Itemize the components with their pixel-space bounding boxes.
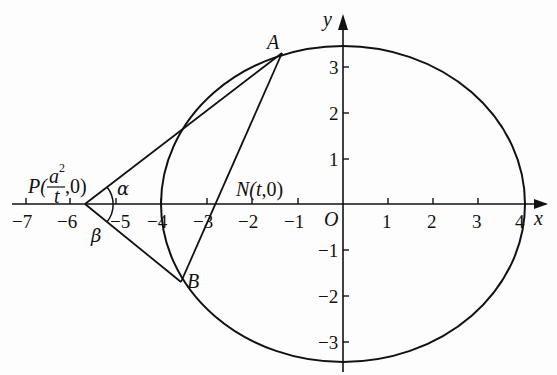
y-tick-label: −2	[318, 286, 338, 307]
diagram-canvas: −7 −6 −5 −4 −3 −2 −1 1 2 3 4 3 2 1 −1 −2…	[0, 0, 557, 375]
point-P-label: P( a 2 t ,0)	[27, 161, 87, 207]
point-A-label: A	[265, 31, 280, 53]
x-tick-label: −6	[57, 211, 77, 232]
svg-text:,0): ,0)	[65, 175, 87, 198]
point-B-label: B	[187, 270, 199, 292]
y-tick-label: 1	[329, 149, 339, 170]
line-AB	[181, 53, 282, 282]
origin-label: O	[324, 208, 338, 230]
y-axis-arrow-icon	[338, 14, 348, 30]
svg-text:P(: P(	[27, 175, 48, 198]
x-axis-label: x	[533, 207, 543, 229]
svg-text:a: a	[49, 165, 59, 187]
point-N-label: N(t,0)	[235, 178, 283, 201]
x-tick-label: −4	[147, 211, 168, 232]
y-tick-label: 3	[329, 57, 339, 78]
x-tick-label: −1	[284, 211, 304, 232]
x-tick-label: −2	[238, 211, 258, 232]
x-tick-label: 4	[515, 211, 525, 232]
svg-text:t: t	[54, 185, 60, 207]
svg-text:2: 2	[59, 161, 65, 175]
x-tick-label: −5	[110, 211, 130, 232]
x-tick-label: 1	[382, 211, 392, 232]
y-axis-label: y	[321, 8, 332, 31]
ellipse-diagram: −7 −6 −5 −4 −3 −2 −1 1 2 3 4 3 2 1 −1 −2…	[0, 0, 557, 375]
y-tick-label: −3	[318, 332, 338, 353]
y-tick-label: 2	[329, 103, 339, 124]
angle-beta-label: β	[90, 225, 101, 246]
x-tick-label: 2	[427, 211, 437, 232]
angle-alpha-label: α	[117, 178, 129, 199]
x-tick-label: −3	[193, 211, 213, 232]
y-tick-label: −1	[318, 240, 338, 261]
x-tick-label: 3	[472, 211, 482, 232]
x-tick-label: −7	[12, 211, 32, 232]
